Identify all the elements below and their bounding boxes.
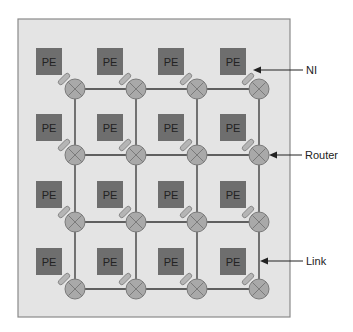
pe-label: PE — [42, 189, 57, 201]
noc-mesh-diagram: PEPEPEPEPEPEPEPEPEPEPEPEPEPEPEPE NI Rout… — [0, 0, 353, 332]
pe-label: PE — [103, 56, 118, 68]
pe-label: PE — [103, 189, 118, 201]
pe-label: PE — [164, 122, 179, 134]
pe-label: PE — [42, 256, 57, 268]
pe-label: PE — [226, 189, 241, 201]
pe-label: PE — [103, 256, 118, 268]
callout-label-router: Router — [305, 149, 338, 161]
pe-label: PE — [226, 56, 241, 68]
pe-label: PE — [164, 189, 179, 201]
pe-label: PE — [226, 256, 241, 268]
pe-label: PE — [42, 56, 57, 68]
pe-label: PE — [164, 56, 179, 68]
pe-label: PE — [226, 122, 241, 134]
callout-label-link: Link — [306, 255, 327, 267]
pe-label: PE — [103, 122, 118, 134]
pe-label: PE — [42, 122, 57, 134]
pe-label: PE — [164, 256, 179, 268]
callout-label-ni: NI — [306, 64, 317, 76]
